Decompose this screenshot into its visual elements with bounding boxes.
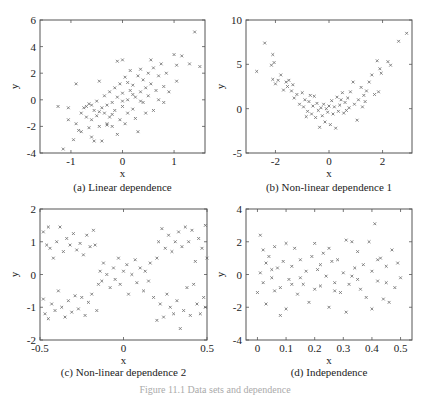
caption-b: (b) Non-linear dependence 1 — [246, 181, 412, 193]
marker-x-icon — [171, 250, 174, 253]
marker-x-icon — [391, 249, 394, 252]
marker-x-icon — [167, 234, 170, 237]
scatter-plots: -101-4-20246xy-202-50510xy-0.500.5-2-101… — [0, 0, 430, 395]
marker-x-icon — [72, 232, 75, 235]
marker-x-icon — [67, 106, 70, 109]
marker-x-icon — [89, 245, 92, 248]
marker-x-icon — [356, 119, 359, 122]
marker-x-icon — [114, 278, 117, 281]
marker-x-icon — [357, 98, 360, 101]
marker-x-icon — [298, 103, 301, 106]
x-tick-label: 0 — [121, 342, 127, 354]
marker-x-icon — [161, 227, 164, 230]
marker-x-icon — [330, 99, 333, 102]
marker-x-icon — [194, 260, 197, 263]
y-tick-label: 0 — [31, 269, 37, 281]
marker-x-icon — [265, 303, 268, 306]
marker-x-icon — [306, 110, 309, 113]
y-tick-label: 2 — [31, 67, 37, 79]
plot-b: -202-50510xy — [214, 14, 412, 179]
x-tick-label: 0 — [255, 342, 261, 354]
marker-x-icon — [299, 276, 302, 279]
marker-x-icon — [139, 100, 142, 103]
marker-x-icon — [180, 55, 183, 58]
marker-x-icon — [273, 245, 276, 248]
figure: -101-4-20246xy-202-50510xy-0.500.5-2-101… — [0, 0, 430, 395]
marker-x-icon — [279, 314, 282, 317]
marker-x-icon — [95, 309, 98, 312]
marker-x-icon — [288, 278, 291, 281]
marker-x-icon — [368, 240, 371, 243]
y-tick-label: -4 — [27, 147, 37, 159]
marker-x-icon — [376, 59, 379, 62]
marker-x-icon — [316, 102, 319, 105]
caption-a: (a) Linear dependence — [40, 181, 205, 193]
marker-x-icon — [129, 89, 132, 92]
marker-x-icon — [113, 109, 116, 112]
y-tick-label: -2 — [233, 301, 242, 313]
marker-x-icon — [75, 122, 78, 125]
marker-x-icon — [103, 94, 106, 97]
marker-x-icon — [174, 240, 177, 243]
marker-x-icon — [344, 101, 347, 104]
marker-x-icon — [137, 130, 140, 133]
marker-x-icon — [332, 113, 335, 116]
marker-x-icon — [368, 81, 371, 84]
marker-x-icon — [373, 222, 376, 225]
marker-x-icon — [199, 312, 202, 315]
marker-x-icon — [85, 116, 88, 119]
marker-x-icon — [186, 286, 189, 289]
marker-x-icon — [45, 244, 48, 247]
marker-x-icon — [270, 276, 273, 279]
marker-x-icon — [90, 104, 93, 107]
marker-x-icon — [201, 247, 204, 250]
marker-x-icon — [144, 112, 147, 115]
marker-x-icon — [64, 316, 67, 319]
y-axis-label: y — [8, 271, 20, 277]
marker-x-icon — [321, 114, 324, 117]
marker-x-icon — [285, 81, 288, 84]
marker-x-icon — [377, 90, 380, 93]
marker-x-icon — [380, 72, 383, 75]
marker-x-icon — [142, 289, 145, 292]
marker-x-icon — [119, 283, 122, 286]
marker-x-icon — [144, 270, 147, 273]
marker-x-icon — [322, 103, 325, 106]
marker-x-icon — [376, 258, 379, 261]
marker-x-icon — [57, 105, 60, 108]
marker-x-icon — [302, 283, 305, 286]
marker-x-icon — [365, 90, 368, 93]
marker-x-icon — [365, 296, 368, 299]
marker-x-icon — [328, 306, 331, 309]
marker-x-icon — [94, 244, 97, 247]
marker-x-icon — [172, 312, 175, 315]
plot-d: 00.10.20.30.40.5-4-2024xy — [214, 203, 412, 366]
marker-x-icon — [308, 100, 311, 103]
y-tick-label: 5 — [237, 58, 243, 70]
marker-x-icon — [139, 68, 142, 71]
marker-x-icon — [296, 293, 299, 296]
marker-x-icon — [356, 278, 359, 281]
marker-x-icon — [262, 249, 265, 252]
marker-x-icon — [134, 117, 137, 120]
marker-x-icon — [59, 226, 62, 229]
marker-x-icon — [90, 293, 93, 296]
marker-x-icon — [313, 288, 316, 291]
marker-x-icon — [75, 82, 78, 85]
x-tick-label: 0.2 — [308, 342, 322, 354]
marker-x-icon — [285, 307, 288, 310]
marker-x-icon — [67, 118, 70, 121]
marker-x-icon — [80, 130, 83, 133]
marker-x-icon — [345, 239, 348, 242]
y-axis-label: y — [214, 271, 226, 277]
marker-x-icon — [350, 275, 353, 278]
marker-x-icon — [187, 240, 190, 243]
marker-x-icon — [339, 291, 342, 294]
marker-x-icon — [124, 76, 127, 79]
marker-x-icon — [88, 102, 91, 105]
marker-x-icon — [80, 296, 83, 299]
marker-x-icon — [334, 127, 337, 130]
marker-x-icon — [204, 224, 207, 227]
marker-x-icon — [342, 112, 345, 115]
marker-x-icon — [131, 93, 134, 96]
